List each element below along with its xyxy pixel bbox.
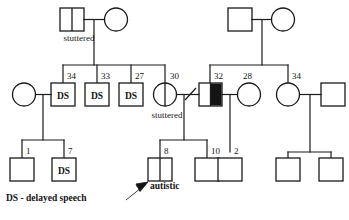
g2-male-33: DS xyxy=(85,83,109,106)
age-label-10: 10 xyxy=(211,146,221,156)
g2-stuttered-note: stuttered xyxy=(152,110,183,120)
g1-right-female xyxy=(272,8,295,31)
g2-female-34 xyxy=(277,83,300,106)
g2-right-spouse-male xyxy=(321,83,345,106)
g2-left-spouse-female xyxy=(13,83,36,106)
g1-left-male xyxy=(60,8,84,31)
g3-male-age10 xyxy=(195,158,219,181)
g3-right-male-2 xyxy=(319,158,343,181)
age-label-34b: 34 xyxy=(292,71,302,81)
age-label-8: 8 xyxy=(164,146,169,156)
age-label-2: 2 xyxy=(234,146,239,156)
pedigree-diagram: stuttered DS 34 DS 33 DS 27 xyxy=(0,0,349,220)
g2-male-34: DS xyxy=(51,83,75,106)
ds-badge: DS xyxy=(57,91,69,101)
age-label-28: 28 xyxy=(243,71,253,81)
age-label-30: 30 xyxy=(170,71,180,81)
g2-female-30 xyxy=(154,83,177,106)
g3-right-male-1 xyxy=(276,158,300,181)
age-label-34a: 34 xyxy=(67,71,77,81)
g2-male-32-affected xyxy=(199,83,222,106)
g1-left-female xyxy=(105,8,128,31)
age-label-32: 32 xyxy=(214,71,223,81)
proband-label: autistic xyxy=(150,181,180,191)
age-label-7: 7 xyxy=(68,146,73,156)
ds-badge: DS xyxy=(125,91,137,101)
g3-proband-male-age8 xyxy=(148,158,172,181)
g2-female-28 xyxy=(238,83,261,106)
ds-badge: DS xyxy=(58,166,70,176)
age-label-1: 1 xyxy=(26,146,31,156)
pedigree-chart: stuttered DS 34 DS 33 DS 27 xyxy=(0,0,349,220)
age-label-27: 27 xyxy=(135,71,145,81)
ds-badge: DS xyxy=(91,91,103,101)
g2-male-27: DS xyxy=(119,83,143,106)
age-label-33: 33 xyxy=(101,71,111,81)
g3-male-age7-ds: DS xyxy=(52,158,76,181)
legend-ds-key: DS - delayed speech xyxy=(6,193,87,203)
proband-arrow-icon xyxy=(126,182,148,200)
g3-male-age2 xyxy=(218,158,242,181)
g3-male-age1 xyxy=(10,158,34,181)
g1-right-male xyxy=(228,8,252,31)
g1-stuttered-note: stuttered xyxy=(64,33,95,43)
